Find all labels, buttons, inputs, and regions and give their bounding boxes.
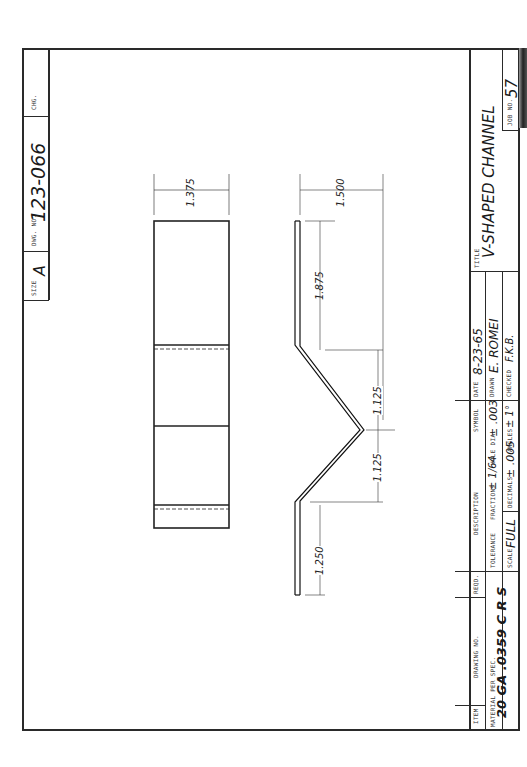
- dim-v-upper: 1.125: [372, 386, 383, 415]
- drawing-views: [0, 0, 527, 767]
- dim-top-view-width: 1.375: [185, 178, 196, 207]
- front-view: [295, 221, 364, 595]
- dim-lower-leg: 1.250: [314, 546, 325, 575]
- top-view: [154, 174, 229, 528]
- front-view-dimension-lines: [300, 174, 395, 595]
- dim-upper-leg: 1.875: [314, 271, 325, 300]
- dim-front-view-width: 1.500: [335, 178, 346, 207]
- dim-v-lower: 1.125: [372, 453, 383, 482]
